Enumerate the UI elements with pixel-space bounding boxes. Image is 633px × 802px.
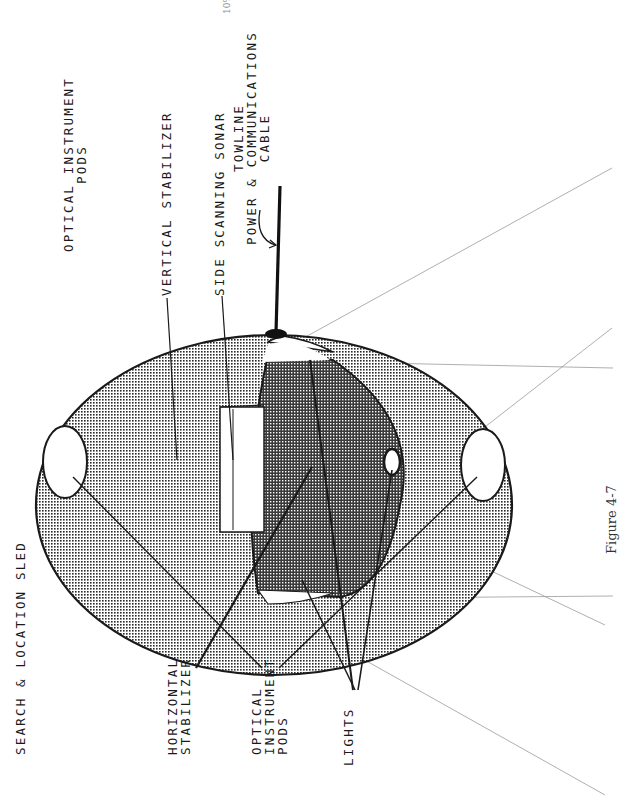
label-optical-pods-bottom: OPTICAL INSTRUMENT PODS [250,658,289,755]
label-towline: TOWLINE POWER & COMMUNICATIONS CABLE [232,31,271,245]
pod-left [43,426,87,498]
towline-cable [276,186,280,333]
sonar-block [220,405,264,532]
label-vertical-stabilizer: VERTICAL STABILIZER [160,111,173,296]
diagram-title: SEARCH & LOCATION SLED [14,541,27,755]
towline-attach [265,329,287,339]
label-horizontal-stabilizer: HORIZONTAL STABILIZER [166,658,192,755]
page-number: 10% [222,0,232,14]
label-line: STABILIZER [178,658,193,755]
label-lights: LIGHTS [342,708,355,766]
label-line: PODS [275,716,290,755]
label-line: CABLE [257,114,272,163]
label-line: PODS [74,145,89,184]
pod-right [461,429,505,501]
label-side-scanning-sonar: SIDE SCANNING SONAR [213,111,226,296]
figure-caption: Figure 4-7 [604,485,619,554]
label-optical-pods-top: OPTICAL INSTRUMENT PODS [62,77,88,252]
sled-diagram [0,0,633,802]
